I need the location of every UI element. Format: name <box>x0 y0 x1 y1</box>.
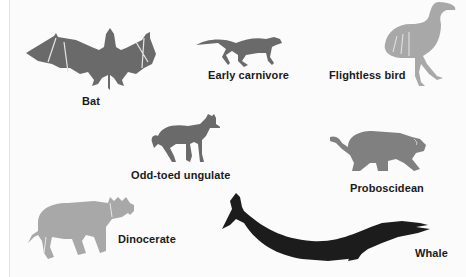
label-bat: Bat <box>82 95 100 107</box>
early-carnivore-silhouette-icon <box>196 33 286 69</box>
proboscidean-silhouette-icon <box>330 131 430 173</box>
left-divider <box>9 0 10 277</box>
whale-silhouette-icon <box>222 193 432 261</box>
odd-toed-ungulate-silhouette-icon <box>150 114 220 164</box>
label-flightless-bird: Flightless bird <box>329 69 406 81</box>
dinocerate-silhouette-icon <box>24 197 138 259</box>
figure-canvas: Bat Early carnivore Flightless bird Odd-… <box>0 0 466 277</box>
left-margin <box>0 0 9 277</box>
label-odd-toed-ungulate: Odd-toed ungulate <box>131 169 230 181</box>
label-whale: Whale <box>415 247 448 259</box>
label-dinocerate: Dinocerate <box>118 233 176 245</box>
bat-silhouette-icon <box>24 28 158 94</box>
label-early-carnivore: Early carnivore <box>208 69 289 81</box>
